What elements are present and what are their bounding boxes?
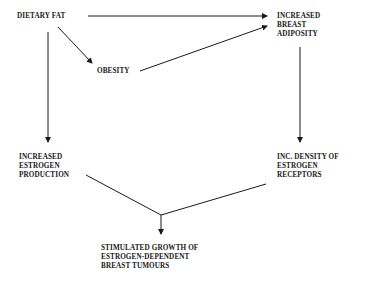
node-label: INCREASED (277, 12, 320, 21)
node-label: ADIPOSITY (277, 30, 320, 39)
node-receptor-density: INC. DENSITY OF ESTROGEN RECEPTORS (277, 153, 339, 180)
node-label: OBESITY (97, 67, 130, 76)
node-label: ESTROGEN (19, 162, 69, 171)
node-tumour-growth: STIMULATED GROWTH OF ESTROGEN-DEPENDENT … (101, 244, 198, 271)
node-dietary-fat: DIETARY FAT (17, 12, 65, 21)
line-receptors-to-merge (161, 184, 266, 215)
node-label: ESTROGEN (277, 162, 339, 171)
node-label: BREAST TUMOURS (101, 262, 198, 271)
node-label: BREAST (277, 21, 320, 30)
arrow-fat-to-obesity (58, 27, 92, 63)
node-label: INCREASED (19, 153, 69, 162)
node-label: DIETARY FAT (17, 12, 65, 21)
arrow-obesity-to-adiposity (140, 26, 267, 71)
line-estrogen-to-merge (86, 175, 161, 215)
node-obesity: OBESITY (97, 67, 130, 76)
node-label: INC. DENSITY OF (277, 153, 339, 162)
diagram-connectors (0, 0, 368, 283)
node-estrogen-production: INCREASED ESTROGEN PRODUCTION (19, 153, 69, 180)
node-breast-adiposity: INCREASED BREAST ADIPOSITY (277, 12, 320, 39)
diagram-canvas: DIETARY FAT OBESITY INCREASED BREAST ADI… (0, 0, 368, 283)
node-label: RECEPTORS (277, 171, 339, 180)
node-label: PRODUCTION (19, 171, 69, 180)
node-label: ESTROGEN-DEPENDENT (101, 253, 198, 262)
node-label: STIMULATED GROWTH OF (101, 244, 198, 253)
